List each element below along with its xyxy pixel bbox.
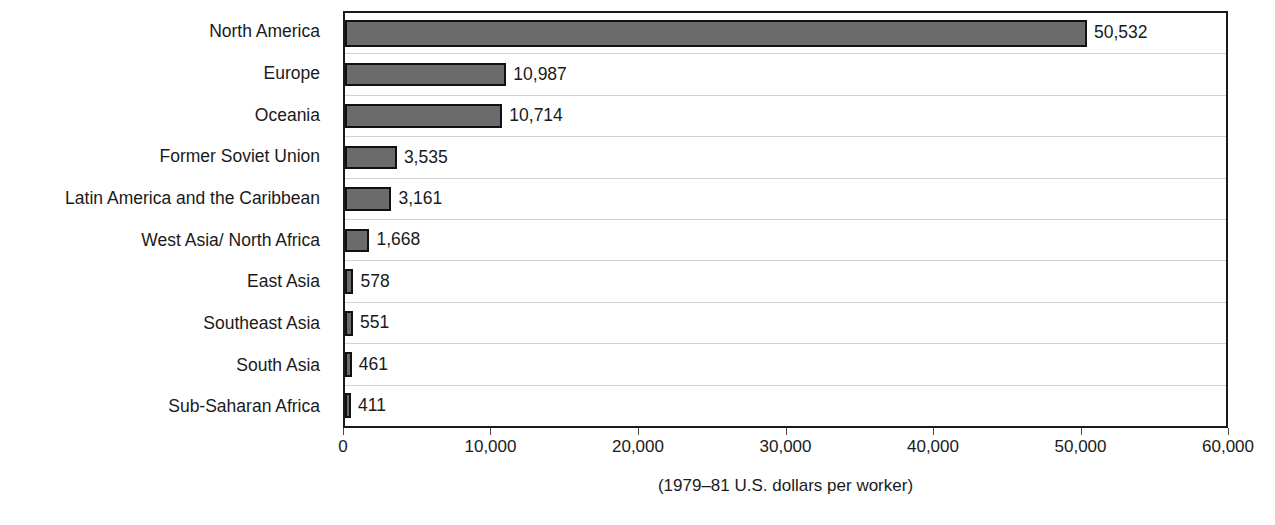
x-axis-tick-label: 10,000 <box>464 438 516 455</box>
category-label: East Asia <box>0 261 330 303</box>
bar <box>345 229 369 252</box>
x-axis-tick <box>1081 428 1082 435</box>
bar-value-label: 10,714 <box>509 107 563 125</box>
category-label: Oceania <box>0 94 330 136</box>
category-label: Sub-Saharan Africa <box>0 386 330 428</box>
bar <box>345 63 506 86</box>
bar <box>345 20 1087 47</box>
x-axis-tick-label: 20,000 <box>612 438 664 455</box>
category-label: Southeast Asia <box>0 303 330 345</box>
x-axis-tick <box>786 428 787 435</box>
bar-row: 578 <box>345 261 1226 302</box>
bar-row: 50,532 <box>345 13 1226 54</box>
bar-value-label: 411 <box>358 397 386 415</box>
bar-row: 461 <box>345 344 1226 385</box>
category-label: Latin America and the Caribbean <box>0 178 330 220</box>
x-axis-tick-label: 50,000 <box>1055 438 1107 455</box>
bar-chart: North AmericaEuropeOceaniaFormer Soviet … <box>0 0 1275 525</box>
bar <box>345 104 502 127</box>
x-axis-tick <box>343 428 344 435</box>
bar <box>345 393 351 418</box>
category-axis-labels: North AmericaEuropeOceaniaFormer Soviet … <box>0 11 330 428</box>
category-label: Europe <box>0 53 330 95</box>
bar <box>345 146 397 169</box>
x-axis-tick <box>933 428 934 435</box>
bar-row: 551 <box>345 303 1226 344</box>
bar-value-label: 3,535 <box>404 149 448 167</box>
category-label: Former Soviet Union <box>0 136 330 178</box>
bar-row: 10,714 <box>345 96 1226 137</box>
bar-value-label: 1,668 <box>376 231 420 249</box>
bar-value-label: 578 <box>360 273 389 291</box>
x-axis-tick-label: 30,000 <box>760 438 812 455</box>
bar-value-label: 461 <box>359 356 388 374</box>
bar <box>345 352 352 377</box>
x-axis-caption: (1979–81 U.S. dollars per worker) <box>343 477 1228 494</box>
bar-rows: 50,53210,98710,7143,5353,1611,6685785514… <box>345 13 1226 426</box>
bar <box>345 311 353 336</box>
bar-row: 10,987 <box>345 54 1226 95</box>
bar-value-label: 50,532 <box>1094 24 1148 42</box>
x-axis-tick <box>638 428 639 435</box>
x-axis-tick <box>1228 428 1229 435</box>
bar-row: 3,535 <box>345 137 1226 178</box>
bar-value-label: 10,987 <box>513 66 567 84</box>
x-axis-tick <box>490 428 491 435</box>
bar-row: 411 <box>345 386 1226 426</box>
category-label: North America <box>0 11 330 53</box>
bar-row: 1,668 <box>345 220 1226 261</box>
x-axis-tick-label: 60,000 <box>1202 438 1254 455</box>
bar-value-label: 551 <box>360 314 389 332</box>
bar <box>345 269 353 294</box>
bar-value-label: 3,161 <box>398 190 442 208</box>
bar-row: 3,161 <box>345 179 1226 220</box>
x-axis-tick-label: 40,000 <box>907 438 959 455</box>
category-label: South Asia <box>0 345 330 387</box>
x-axis-tick-label: 0 <box>338 438 347 455</box>
plot-area: 50,53210,98710,7143,5353,1611,6685785514… <box>343 11 1228 428</box>
category-label: West Asia/ North Africa <box>0 220 330 262</box>
bar <box>345 187 391 210</box>
